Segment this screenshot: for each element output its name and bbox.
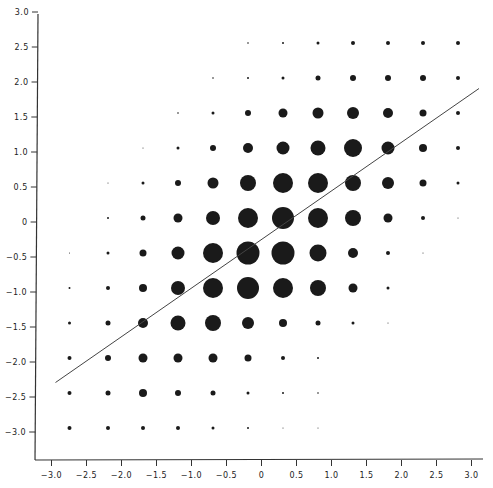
- bubble: [68, 391, 72, 395]
- y-tick-label: −1.0: [6, 288, 27, 297]
- bubble: [352, 322, 355, 325]
- x-tick-label: 0: [259, 471, 265, 480]
- bubble: [348, 248, 358, 258]
- bubble-scatter-chart: 3.02.52.01.51.00.50−0.5−1.0−1.5−2.0−2.5−…: [0, 0, 493, 488]
- bubble: [69, 287, 71, 289]
- bubble: [283, 428, 284, 429]
- bubble: [142, 182, 145, 185]
- x-tick-label: −0.5: [216, 471, 237, 480]
- bubble: [311, 141, 326, 156]
- bubble: [420, 180, 427, 187]
- bubble: [273, 173, 293, 193]
- bubble: [177, 147, 180, 150]
- x-tick-label: −2.0: [111, 471, 132, 480]
- bubble: [272, 207, 294, 229]
- bubble: [106, 321, 111, 326]
- bubble: [382, 177, 394, 189]
- bubble: [203, 278, 223, 298]
- bubble: [68, 322, 71, 325]
- bubble: [175, 180, 181, 186]
- bubble: [247, 427, 249, 429]
- bubble: [106, 391, 111, 396]
- bubble: [212, 112, 215, 115]
- bubble: [139, 389, 147, 397]
- bubble: [237, 277, 259, 299]
- bubble: [105, 355, 111, 361]
- bubble: [174, 214, 183, 223]
- bubble: [143, 148, 144, 149]
- bubble: [313, 108, 324, 119]
- bubble: [423, 253, 424, 254]
- y-tick-label: −3.0: [5, 428, 26, 437]
- bubble: [211, 391, 216, 396]
- bubble: [205, 315, 221, 331]
- bubble: [172, 247, 185, 260]
- x-tick-label: 0.5: [289, 471, 303, 480]
- x-axis-ticks: −3.0−2.5−2.0−1.5−1.0−0.500.51.01.52.02.5…: [41, 460, 479, 480]
- bubble: [107, 252, 110, 255]
- y-tick-label: 2.5: [15, 43, 29, 52]
- bubble: [279, 109, 288, 118]
- bubble: [203, 243, 223, 263]
- bubble: [317, 392, 319, 394]
- bubble: [273, 278, 293, 298]
- bubble: [108, 183, 109, 184]
- bubble: [210, 145, 216, 151]
- bubble: [456, 146, 460, 150]
- bubble: [281, 356, 285, 360]
- bubble: [174, 354, 183, 363]
- bubble: [141, 216, 146, 221]
- bubble: [344, 139, 362, 157]
- bubble: [316, 321, 321, 326]
- bubble: [310, 280, 326, 296]
- bubble: [277, 142, 290, 155]
- bubble: [237, 242, 260, 265]
- bubble: [351, 41, 355, 45]
- bubble: [345, 175, 361, 191]
- bubble-group: [68, 41, 461, 430]
- bubble: [318, 428, 319, 429]
- bubble: [347, 107, 359, 119]
- bubble: [456, 76, 460, 80]
- bubble: [316, 76, 321, 81]
- bubble: [106, 426, 110, 430]
- y-tick-label: −2.0: [5, 358, 26, 367]
- bubble: [212, 427, 215, 430]
- bubble: [247, 42, 249, 44]
- bubble: [140, 250, 147, 257]
- bubble: [279, 319, 287, 327]
- regression-line: [56, 89, 480, 383]
- bubble: [386, 41, 390, 45]
- y-tick-label: 3.0: [15, 8, 29, 17]
- bubble: [456, 111, 460, 115]
- bubble: [350, 75, 356, 81]
- y-axis-ticks: 3.02.52.01.51.00.50−0.5−1.0−1.5−2.0−2.5−…: [5, 8, 38, 437]
- bubble: [141, 426, 145, 430]
- y-tick-label: −1.5: [5, 323, 26, 332]
- bubble: [208, 178, 219, 189]
- bubble: [240, 175, 256, 191]
- bubble: [458, 218, 459, 219]
- x-tick-label: −3.0: [41, 471, 62, 480]
- bubble: [388, 323, 389, 324]
- bubble: [420, 75, 426, 81]
- bubble: [272, 242, 295, 265]
- bubble: [212, 77, 214, 79]
- y-tick-label: 1.5: [14, 113, 28, 122]
- y-tick-label: −0.5: [6, 253, 27, 262]
- bubble: [308, 208, 328, 228]
- bubble: [243, 143, 253, 153]
- x-tick-label: −2.5: [76, 471, 97, 480]
- bubble: [247, 77, 249, 79]
- bubble: [419, 144, 427, 152]
- bubble: [68, 356, 72, 360]
- bubble: [175, 390, 181, 396]
- bubble: [139, 284, 147, 292]
- y-tick-label: 2.0: [14, 78, 28, 87]
- bubble: [171, 316, 186, 331]
- bubble: [457, 182, 460, 185]
- bubble: [345, 210, 361, 226]
- bubble: [106, 286, 110, 290]
- bubble: [317, 42, 320, 45]
- bubble: [282, 77, 285, 80]
